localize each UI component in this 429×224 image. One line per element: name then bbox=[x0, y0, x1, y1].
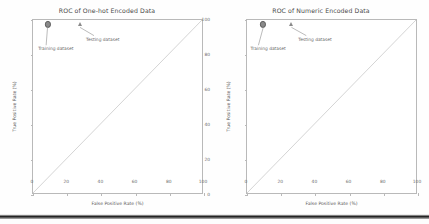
x-tick bbox=[204, 193, 205, 196]
y-tick bbox=[31, 195, 34, 196]
x-tick-label: 40 bbox=[98, 179, 104, 184]
y-axis-title: True Positive Rate (%) bbox=[224, 19, 232, 194]
x-axis-title: False Positive Rate (%) bbox=[246, 201, 417, 206]
annotation-leader-line bbox=[247, 20, 418, 195]
x-tick bbox=[418, 193, 419, 196]
x-tick-label: 60 bbox=[132, 179, 138, 184]
chart-title: ROC of Numeric Encoded Data bbox=[214, 7, 428, 14]
y-axis-title-text: True Positive Rate (%) bbox=[12, 81, 17, 131]
y-tick-label: 0 bbox=[207, 192, 210, 197]
page-edge bbox=[0, 219, 429, 224]
y-tick-label: 40 bbox=[204, 122, 210, 127]
x-tick-label: 0 bbox=[31, 179, 34, 184]
y-axis-title: True Positive Rate (%) bbox=[10, 19, 18, 194]
x-tick-label: 40 bbox=[312, 179, 318, 184]
y-tick-label: 20 bbox=[204, 157, 210, 162]
x-axis-title: False Positive Rate (%) bbox=[32, 201, 203, 206]
x-tick-label: 20 bbox=[277, 179, 283, 184]
y-tick bbox=[245, 195, 248, 196]
chart-numeric-encoded: ROC of Numeric Encoded Data True Positiv… bbox=[214, 0, 428, 214]
chart-one-hot-encoded: ROC of One-hot Encoded Data True Positiv… bbox=[0, 0, 214, 214]
x-tick-label: 100 bbox=[413, 179, 421, 184]
scanned-figure-page: ROC of One-hot Encoded Data True Positiv… bbox=[0, 0, 429, 224]
x-tick-label: 80 bbox=[166, 179, 172, 184]
x-tick-label: 0 bbox=[245, 179, 248, 184]
y-tick-label: 60 bbox=[204, 87, 210, 92]
chart-title: ROC of One-hot Encoded Data bbox=[0, 7, 214, 14]
y-axis-title-text: True Positive Rate (%) bbox=[226, 81, 231, 131]
x-tick-label: 20 bbox=[63, 179, 69, 184]
plot-area: Training datasetTesting dataset bbox=[246, 19, 417, 194]
x-tick-label: 100 bbox=[199, 179, 207, 184]
annotation-label: Testing dataset bbox=[86, 37, 119, 42]
annotation-leader-line bbox=[33, 20, 204, 195]
annotation-label: Testing dataset bbox=[298, 37, 331, 42]
x-tick-label: 60 bbox=[346, 179, 352, 184]
x-tick-label: 80 bbox=[380, 179, 386, 184]
y-tick-label: 80 bbox=[204, 52, 210, 57]
y-tick-label: 100 bbox=[202, 17, 210, 22]
plot-area: Training datasetTesting dataset bbox=[32, 19, 203, 194]
